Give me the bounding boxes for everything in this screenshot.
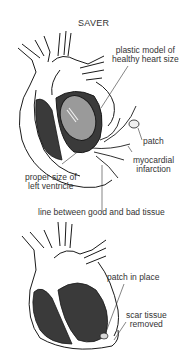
label-plastic-model: plastic model of healthy heart size [112,46,179,64]
label-patch: patch [143,137,164,146]
label-mi-line2: infarction [133,165,174,174]
patch-in-place-shape [100,333,108,339]
label-scar-tissue: scar tissue removed [126,311,167,329]
label-proper-size-line2: left ventricle [25,182,77,191]
label-proper-size: proper size of left ventricle [25,173,77,191]
label-patch-in-place: patch in place [107,273,159,282]
patch-shape [129,120,139,128]
label-scar-line2: removed [126,320,167,329]
label-plastic-model-line2: healthy heart size [112,55,179,64]
label-myocardial-infarction: myocardial infarction [133,156,174,174]
label-line-between: line between good and bad tissue [38,208,165,217]
